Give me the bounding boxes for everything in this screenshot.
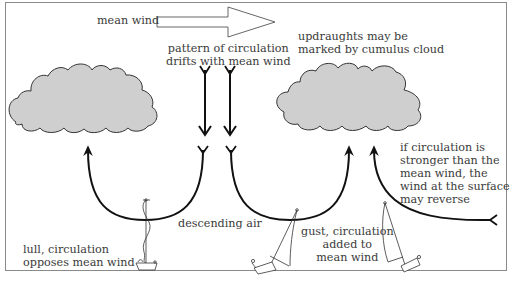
reverse-line-5: may reverse: [400, 193, 510, 206]
arc-middle-gust: [226, 146, 349, 220]
gust-label: gust, circulation added to mean wind: [301, 225, 394, 264]
mean-wind-text: mean wind: [97, 14, 159, 27]
downdraught-arrow-1: [199, 66, 211, 135]
cumulus-cloud-left: [9, 64, 157, 133]
gust-line-2: added to: [301, 238, 394, 251]
pattern-line-1: pattern of circulation: [166, 42, 291, 55]
downdraught-arrow-2: [224, 66, 236, 135]
updraughts-label: updraughts may be marked by cumulus clou…: [298, 30, 444, 56]
lull-line-2: opposes mean wind: [23, 256, 135, 269]
reverse-line-4: wind at the surface: [400, 180, 510, 193]
reverse-line-2: stronger than the: [400, 154, 510, 167]
lull-line-1: lull, circulation: [23, 243, 135, 256]
reverse-line-1: if circulation is: [400, 141, 510, 154]
pattern-label: pattern of circulation drifts with mean …: [166, 42, 291, 68]
reverse-line-3: mean wind, the: [400, 167, 510, 180]
descending-air-label: descending air: [178, 217, 262, 230]
gust-line-1: gust, circulation: [301, 225, 394, 238]
mean-wind-arrow-icon: [157, 7, 275, 37]
lull-label: lull, circulation opposes mean wind: [23, 243, 135, 269]
dinghy-lull-upright: [136, 199, 157, 270]
cumulus-cloud-right: [277, 63, 421, 130]
updraughts-line-2: marked by cumulus cloud: [298, 43, 444, 56]
updraughts-line-1: updraughts may be: [298, 30, 444, 43]
reverse-label: if circulation is stronger than the mean…: [400, 141, 510, 206]
descending-air-text: descending air: [178, 217, 262, 230]
arc-left-updraught: [88, 146, 208, 220]
gust-line-3: mean wind: [301, 251, 394, 264]
pattern-line-2: drifts with mean wind: [166, 55, 291, 68]
mean-wind-label: mean wind: [97, 14, 159, 27]
